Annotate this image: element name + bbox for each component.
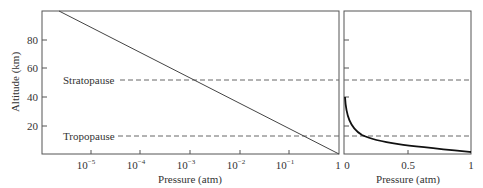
svg-text:10−2: 10−2 [227,158,246,171]
svg-text:10−4: 10−4 [127,158,146,171]
right-xtick-1: 1 [468,159,474,171]
stratopause-label: Stratopause [63,74,114,86]
left-x-tick-labels: 10−5 10−4 10−3 10−2 10−1 1 [77,158,341,171]
y-axis-label: Altitude (km) [9,52,22,113]
svg-text:1: 1 [335,159,341,171]
chart-figure: 80 60 40 20 Altitude (km) 10−5 10−4 10−3… [0,0,483,188]
x-axis-label-right: Pressure (atm) [376,173,440,186]
ytick-20: 20 [27,120,39,132]
x-axis-label-left: Pressure (atm) [158,173,222,186]
left-x-ticks [91,150,289,154]
svg-text:10−3: 10−3 [177,158,196,171]
svg-text:10−1: 10−1 [276,158,295,171]
right-xtick-0: 0 [344,159,350,171]
ytick-80: 80 [27,34,39,46]
right-panel-frame [344,11,471,154]
ytick-60: 60 [27,62,39,74]
svg-text:10−5: 10−5 [77,158,96,171]
right-pressure-curve [345,97,471,152]
ytick-40: 40 [27,91,39,103]
tropopause-label: Tropopause [63,130,115,142]
right-xtick-0-5: 0.5 [401,159,415,171]
left-y-ticks [42,40,47,126]
